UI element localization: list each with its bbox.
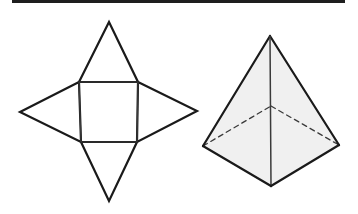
- net-triangle-bottom: [81, 142, 137, 201]
- square-pyramid-3d: [203, 36, 339, 186]
- pyramid-net: [20, 22, 197, 201]
- pyramid-edge-apex-front: [270, 36, 271, 186]
- net-square-base: [79, 82, 138, 142]
- diagram-canvas: [0, 0, 358, 214]
- net-triangle-right: [137, 82, 197, 142]
- net-triangle-top: [79, 22, 138, 82]
- net-triangle-left: [20, 82, 81, 142]
